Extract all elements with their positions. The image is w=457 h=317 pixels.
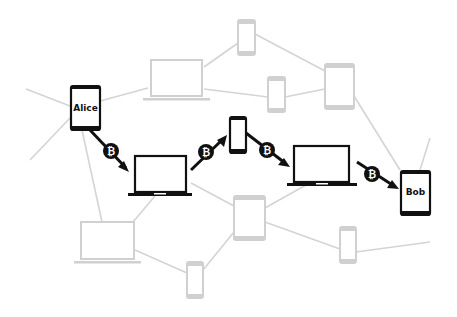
svg-text:₿: ₿: [202, 147, 210, 158]
inactive-laptop: [74, 222, 141, 264]
relay-phone-1: [230, 117, 246, 153]
relay-laptop-2: [287, 146, 357, 186]
inactive-tablet: [325, 64, 354, 109]
edge: [191, 183, 234, 206]
svg-text:₿: ₿: [107, 146, 115, 157]
sender-tablet-alice: Alice: [71, 86, 100, 130]
sender-label: Alice: [73, 103, 98, 113]
svg-text:₿: ₿: [368, 169, 376, 180]
edge: [133, 196, 155, 222]
edge: [100, 88, 148, 101]
edge: [265, 222, 340, 249]
inactive-phone: [238, 20, 255, 55]
edge: [26, 89, 70, 106]
receiver-tablet-bob: Bob: [401, 171, 430, 215]
edge: [356, 242, 430, 252]
bitcoin-icon: ₿: [198, 144, 214, 160]
edge: [203, 232, 234, 270]
edge: [420, 138, 430, 170]
edge: [204, 89, 268, 97]
svg-text:₿: ₿: [263, 145, 271, 156]
edge: [265, 185, 306, 208]
inactive-laptop: [143, 60, 210, 101]
inactive-phone: [268, 77, 285, 112]
edge: [135, 250, 187, 273]
edge: [30, 118, 70, 160]
receiver-label: Bob: [406, 187, 426, 197]
edge: [82, 130, 102, 222]
bitcoin-icon: ₿: [259, 142, 275, 158]
edge: [285, 89, 325, 97]
bitcoin-icon: ₿: [364, 166, 380, 182]
edge: [354, 96, 400, 170]
inactive-phone: [340, 227, 356, 263]
bitcoin-icon: ₿: [103, 143, 119, 159]
inactive-tablet: [234, 196, 265, 240]
payment-network-diagram: Alice Bob ₿ ₿ ₿ ₿: [0, 0, 457, 317]
edge: [255, 34, 325, 71]
inactive-phone: [187, 262, 203, 298]
relay-laptop-1: [128, 156, 192, 196]
edge: [204, 43, 238, 67]
